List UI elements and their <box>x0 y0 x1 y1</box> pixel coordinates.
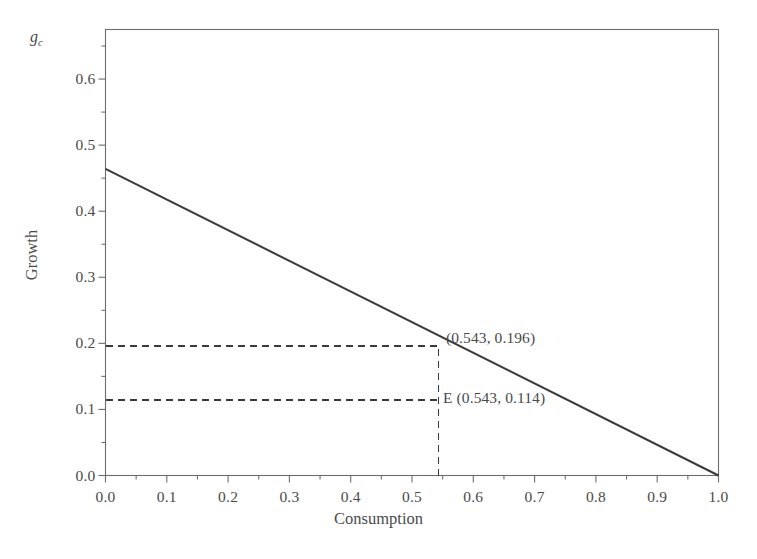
x-tick-label: 0.5 <box>402 488 422 506</box>
guide-lines <box>106 346 439 476</box>
axis-ticks <box>99 46 719 482</box>
x-tick-label: 1.0 <box>709 488 729 506</box>
x-tick-label: 0.6 <box>463 488 483 506</box>
x-tick-label: 0.3 <box>279 488 299 506</box>
plot-canvas <box>0 0 757 559</box>
y-tick-label: 0.1 <box>48 400 96 418</box>
x-tick-label: 0.8 <box>586 488 606 506</box>
y-tick-label: 0.0 <box>48 467 96 485</box>
y-axis-symbol-base: g <box>30 28 38 45</box>
point-label-upper: (0.543, 0.196) <box>446 329 535 347</box>
chart-figure: gc 0.00.10.20.30.40.50.6 0.00.10.20.30.4… <box>0 0 757 559</box>
y-tick-label: 0.5 <box>48 136 96 154</box>
y-tick-label: 0.3 <box>48 268 96 286</box>
y-tick-label: 0.6 <box>48 70 96 88</box>
y-axis-symbol-label: gc <box>30 28 43 48</box>
x-tick-label: 0.2 <box>218 488 238 506</box>
x-tick-label: 0.1 <box>157 488 177 506</box>
x-tick-label: 0.9 <box>647 488 667 506</box>
y-tick-label: 0.4 <box>48 202 96 220</box>
point-label-equilibrium: E (0.543, 0.114) <box>443 389 545 407</box>
x-axis-title: Consumption <box>0 509 757 529</box>
x-tick-label: 0.4 <box>341 488 361 506</box>
x-tick-label: 0.0 <box>96 488 116 506</box>
y-axis-symbol-subscript: c <box>38 37 43 48</box>
y-axis-title: Growth <box>22 210 42 300</box>
data-series <box>106 169 719 476</box>
y-tick-label: 0.2 <box>48 334 96 352</box>
x-tick-label: 0.7 <box>525 488 545 506</box>
axes-frame <box>106 30 719 476</box>
